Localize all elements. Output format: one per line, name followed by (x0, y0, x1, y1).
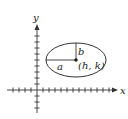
center-label: (h, k) (78, 60, 105, 71)
semi-major-label: a (57, 61, 63, 72)
y-axis (35, 28, 40, 113)
semi-minor-label: b (78, 46, 84, 57)
ellipse-diagram: y x a b (h, k) (0, 0, 128, 119)
y-axis-arrow-icon (35, 24, 40, 30)
x-axis (7, 88, 114, 93)
x-axis-arrow-icon (112, 88, 118, 93)
x-axis-label: x (120, 85, 126, 96)
y-axis-label: y (32, 12, 39, 23)
